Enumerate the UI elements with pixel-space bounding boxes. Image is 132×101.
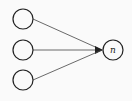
diagram-canvas: n — [0, 0, 132, 101]
input-node-1 — [13, 9, 33, 29]
input-node-3 — [13, 70, 33, 90]
output-node-label: n — [110, 45, 116, 55]
edge-input-3-to-output — [33, 50, 102, 80]
edge-input-1-to-output — [33, 19, 102, 50]
input-node-2 — [13, 40, 33, 60]
